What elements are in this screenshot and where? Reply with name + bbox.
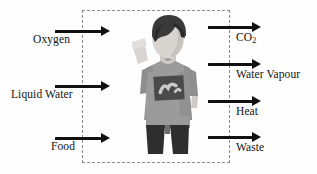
arrow-head (252, 22, 261, 32)
input-label-oxygen: Oxygen (33, 34, 70, 46)
diagram-canvas: Oxygen Liquid Water Food CO2 Water Vapou… (0, 0, 317, 174)
arrow-head (101, 133, 110, 143)
shorts-right (170, 125, 189, 154)
input-label-liquid-water: Liquid Water (11, 89, 73, 101)
output-label-co2: CO2 (236, 32, 256, 44)
output-label-heat: Heat (236, 106, 258, 118)
shirt-graphic (153, 75, 184, 101)
arrow-shaft (208, 63, 252, 66)
arrow-head (101, 26, 110, 36)
output-label-water-vapour: Water Vapour (236, 69, 300, 81)
right-hand (191, 96, 198, 108)
arrow-shaft (208, 100, 252, 103)
raised-arm-icon (132, 38, 148, 64)
output-label-waste: Waste (236, 142, 264, 154)
human-figure (118, 12, 214, 162)
arrow-shaft (208, 26, 252, 29)
shorts-left (146, 125, 165, 154)
output-label-co2-text: CO (236, 31, 252, 43)
input-label-food: Food (51, 141, 75, 153)
output-label-co2-subscript: 2 (252, 36, 256, 45)
arrow-shaft (208, 136, 252, 139)
arrow-head (101, 81, 110, 91)
